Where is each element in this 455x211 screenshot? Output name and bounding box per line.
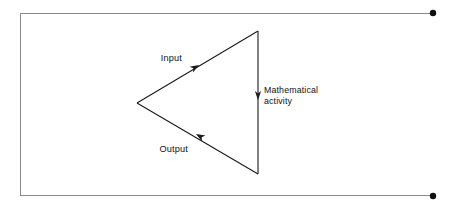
edge-arrowheads [190,62,262,141]
bottom-right-terminal-dot [430,193,436,199]
figure-container: Input Output Mathematical activity [0,0,455,211]
page-border-frame [20,13,431,196]
top-right-terminal-dot [430,10,436,16]
cycle-diagram: Input Output Mathematical activity [0,0,455,211]
mathematical-activity-label-line2: activity [264,96,293,106]
output-edge-line [137,103,258,174]
input-label: Input [161,53,182,63]
mathematical-activity-label-line1: Mathematical [264,85,318,95]
input-edge-line [137,31,258,103]
output-label: Output [160,144,189,154]
triangle-cycle [137,31,258,174]
